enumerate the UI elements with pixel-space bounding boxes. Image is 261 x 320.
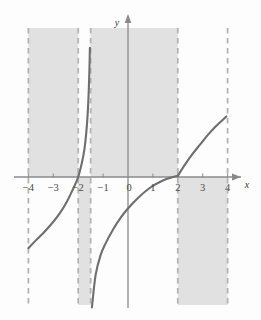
x-tick-label--2: −2 [73,182,84,193]
x-axis-label: x [244,179,250,190]
math-graph-figure: −4−3−2−101234 y x [0,0,261,320]
x-tick-label-3: 3 [200,182,205,193]
shaded-region-band-1 [28,28,78,177]
graph-canvas: −4−3−2−101234 y x [0,0,261,320]
x-axis-tick-labels-group: −4−3−2−101234 [23,182,231,193]
shaded-region-band-3 [91,28,178,177]
y-axis-label: y [114,17,120,28]
shaded-region-band-4 [178,177,228,305]
x-tick-label--4: −4 [23,182,35,193]
x-tick-label-0: 0 [126,182,131,193]
x-tick-label--3: −3 [48,182,59,193]
x-tick-label-1: 1 [150,182,155,193]
x-tick-label-4: 4 [225,182,231,193]
x-tick-label-2: 2 [175,182,180,193]
shaded-region-band-2 [78,177,90,305]
x-tick-label--1: −1 [98,182,109,193]
